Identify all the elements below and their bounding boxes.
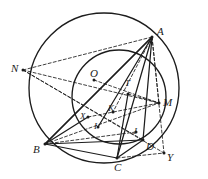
point-label-t: T — [125, 79, 130, 88]
point-label-a: A — [157, 26, 164, 37]
segment-X-M — [88, 103, 159, 117]
segment-B-C — [45, 144, 117, 158]
point-label-n: N — [11, 63, 18, 74]
point-dot-b — [44, 143, 47, 146]
segment-N-A — [23, 37, 152, 70]
geometry-canvas — [0, 0, 208, 179]
point-label-m: M — [163, 97, 172, 108]
point-label-o: O — [90, 68, 98, 79]
point-dot-d — [142, 139, 145, 142]
point-dot-c — [116, 157, 119, 160]
point-dot-a — [151, 36, 154, 39]
point-label-c: C — [114, 162, 121, 173]
point-dot-x — [87, 116, 90, 119]
point-label-d: D — [146, 141, 154, 152]
inner-circle — [72, 50, 166, 144]
point-label-j: J — [133, 127, 137, 136]
point-dot-y — [163, 152, 166, 155]
point-label-b: B — [33, 144, 40, 155]
point-label-k: K — [108, 104, 114, 113]
point-dot-t — [127, 93, 130, 96]
point-label-i: I — [94, 122, 97, 131]
point-dot-m — [158, 102, 161, 105]
point-label-y: Y — [167, 152, 173, 163]
segment-A-Y — [152, 37, 164, 153]
point-label-x: X — [80, 112, 86, 121]
geometry-figure: ABCDNMOTKXIJY — [0, 0, 208, 179]
point-dot-n — [22, 69, 25, 72]
